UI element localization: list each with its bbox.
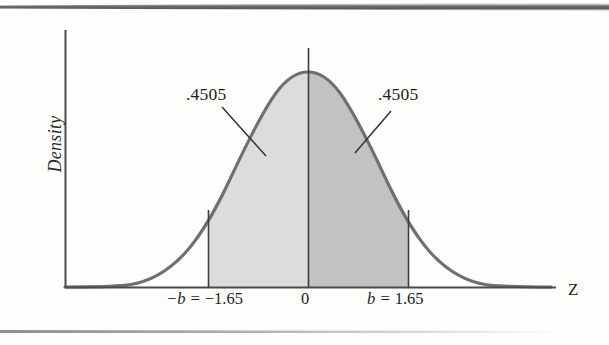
area-annotation-right: .4505 [378, 86, 418, 104]
area-annotation-left: .4505 [186, 86, 226, 104]
shaded-area-right [308, 72, 551, 287]
x-tick-right-symbol: b = [367, 289, 395, 308]
x-tick-label-zero: 0 [301, 291, 309, 308]
figure-page: Density .4505 .4505 −b = −1.65 0 b = 1.6… [0, 0, 609, 345]
x-axis-label: Z [568, 281, 578, 298]
shaded-area-left [65, 72, 308, 287]
x-tick-right-value: 1.65 [395, 289, 424, 308]
x-tick-left-symbol: −b = [166, 289, 205, 308]
x-tick-label-negative-b: −b = −1.65 [166, 291, 243, 308]
x-tick-left-value: −1.65 [205, 289, 243, 308]
x-tick-label-positive-b: b = 1.65 [367, 291, 424, 308]
y-axis-label: Density [46, 84, 64, 204]
